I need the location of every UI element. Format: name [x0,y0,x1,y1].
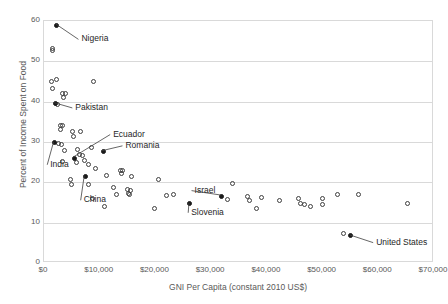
callout-label-china: China [84,195,106,204]
data-point [127,192,132,197]
gridline-50 [44,61,432,62]
data-point-israel [219,194,224,199]
callout-label-romania: Romania [125,141,159,150]
data-point [86,162,91,167]
data-point [89,145,94,150]
data-point-ecuador [72,156,77,161]
y-tick-label: 60 [4,16,40,24]
data-point [50,48,55,53]
data-point [50,86,55,91]
data-point [61,95,66,100]
data-point [58,127,63,132]
data-point [277,198,282,203]
data-point [341,231,346,236]
data-point-romania [101,149,106,154]
data-point [302,202,307,207]
gridline-30 [44,142,432,143]
scatter-chart: 60 50 40 30 20 10 0 Percent of Income Sp… [0,0,448,304]
data-point [80,153,85,158]
callout-label-ecuador: Ecuador [113,130,145,139]
data-point [254,206,259,211]
data-point [225,197,230,202]
callout-label-united-states: United States [376,238,427,247]
data-point-slovenia [187,201,192,206]
data-point [164,193,169,198]
data-point [59,142,64,147]
callout-label-pakistan: Pakistan [75,103,108,112]
data-point [356,192,361,197]
data-point [129,174,134,179]
data-point [308,204,313,209]
data-point [230,181,235,186]
data-point [119,171,124,176]
data-point [335,192,340,197]
x-axis-title: GNI Per Capita (constant 2010 US$) [43,283,433,292]
data-point [91,79,96,84]
callout-label-nigeria: Nigeria [81,34,108,43]
data-point [86,182,91,187]
data-point [320,196,325,201]
data-point [71,134,76,139]
y-tick-label: 0 [4,258,40,266]
y-axis-title: Percent of Income Spent on Food [19,40,28,210]
data-point [93,166,98,171]
callout-label-india: India [50,160,68,169]
data-point [114,192,119,197]
data-point [171,192,176,197]
data-point [54,77,59,82]
data-point [104,173,109,178]
data-point [78,129,83,134]
gridline-10 [44,223,432,224]
data-point [62,148,67,153]
data-point-nigeria [54,23,59,28]
data-point [320,202,325,207]
x-tick-label: $70,000 [398,266,448,274]
data-point [152,206,157,211]
gridline-20 [44,182,432,183]
data-point [49,79,54,84]
callout-label-slovenia: Slovenia [191,208,224,217]
data-point-china [83,174,88,179]
data-point [247,198,252,203]
plot-area [43,20,433,262]
data-point [69,182,74,187]
data-point-pakistan [53,101,58,106]
data-point [111,185,116,190]
data-point-united-states [348,233,353,238]
callout-label-israel: Israel [195,186,216,195]
data-point [259,195,264,200]
data-point [102,204,107,209]
y-tick-label: 10 [4,218,40,226]
data-point [405,201,410,206]
